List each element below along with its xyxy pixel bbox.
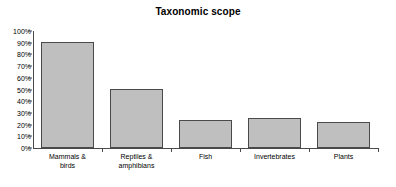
x-axis-tick-mark	[309, 148, 310, 152]
y-axis-tick-mark	[28, 124, 32, 125]
x-axis-category-label-line: amphibians	[102, 162, 171, 171]
x-axis-tick-mark	[240, 148, 241, 152]
bar-slot	[240, 31, 309, 148]
chart-title: Taxonomic scope	[0, 6, 396, 17]
bar	[41, 42, 95, 148]
y-axis-tick-mark	[28, 66, 32, 67]
bar	[317, 122, 371, 148]
x-axis-category-label: Mammals &birds	[33, 153, 102, 170]
x-axis-category-label-line: Fish	[171, 153, 240, 162]
bar-slot	[102, 31, 171, 148]
x-axis-category-label-line: Invertebrates	[240, 153, 309, 162]
bar-series	[33, 31, 378, 148]
x-axis-category-label-line: Plants	[309, 153, 378, 162]
y-axis-tick-mark	[28, 77, 32, 78]
y-axis-tick-mark	[28, 89, 32, 90]
bar	[110, 89, 164, 148]
y-axis-tick-mark	[28, 112, 32, 113]
x-axis-tick-mark	[378, 148, 379, 152]
chart-root: Taxonomic scope 0%10%20%30%40%50%60%70%8…	[0, 0, 396, 187]
y-axis-tick-mark	[28, 54, 32, 55]
y-axis-tick-mark	[28, 148, 32, 149]
x-axis-tick-mark	[102, 148, 103, 152]
x-axis-category-label: Invertebrates	[240, 153, 309, 162]
x-axis-category-label-line: birds	[33, 162, 102, 171]
x-axis-line	[33, 148, 378, 149]
bar-slot	[309, 31, 378, 148]
x-axis-category-label: Fish	[171, 153, 240, 162]
y-axis-tick-mark	[28, 136, 32, 137]
x-axis-tick-mark	[171, 148, 172, 152]
y-axis-tick-mark	[28, 101, 32, 102]
bar	[179, 120, 233, 148]
x-axis-category-label: Plants	[309, 153, 378, 162]
y-axis-tick-mark	[28, 31, 32, 32]
bar-slot	[171, 31, 240, 148]
y-axis-tick-mark	[28, 42, 32, 43]
x-axis-category-labels: Mammals &birdsReptiles &amphibiansFishIn…	[33, 153, 378, 183]
bar-slot	[33, 31, 102, 148]
y-axis-tick-marks	[0, 31, 33, 148]
x-axis-category-label-line: Mammals &	[33, 153, 102, 162]
x-axis-category-label: Reptiles &amphibians	[102, 153, 171, 170]
x-axis-category-label-line: Reptiles &	[102, 153, 171, 162]
bar	[248, 118, 302, 148]
